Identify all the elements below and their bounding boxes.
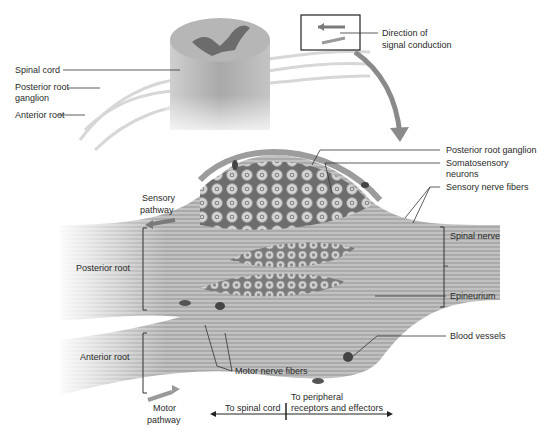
label-direction-2: signal conduction: [382, 40, 452, 51]
label-anterior-root-top: Anterior root: [15, 110, 65, 121]
label-posterior-root-ganglion: Posterior root ganglion: [446, 145, 537, 156]
label-motor-nerve-fibers: Motor nerve fibers: [235, 366, 308, 377]
label-motor-pathway: Motor: [153, 403, 176, 414]
label-epineurium: Epineurium: [450, 291, 496, 302]
label-to-peripheral-2: receptors and effectors: [291, 403, 383, 414]
label-anterior-root: Anterior root: [80, 352, 130, 363]
label-sensory-pathway: Sensory: [142, 193, 175, 204]
label-spinal-nerve: Spinal nerve: [450, 231, 500, 242]
label-posterior-root: Posterior root: [76, 263, 130, 274]
label-posterior-root-ganglion-top: Posterior root: [15, 82, 69, 93]
label-somatosensory-neurons: Somatosensory: [446, 158, 509, 169]
label-posterior-root-ganglion-top-2: ganglion: [15, 93, 49, 104]
label-direction: Direction of: [382, 28, 428, 39]
label-to-peripheral: To peripheral: [291, 392, 343, 403]
label-motor-pathway-2: pathway: [147, 415, 181, 426]
inset-box: [301, 15, 360, 50]
label-sensory-pathway-2: pathway: [140, 205, 174, 216]
label-to-spinal-cord: To spinal cord: [225, 403, 281, 414]
label-somatosensory-neurons-2: neurons: [446, 169, 479, 180]
label-blood-vessels: Blood vessels: [450, 331, 506, 342]
label-spinal-cord: Spinal cord: [15, 65, 60, 76]
label-sensory-nerve-fibers: Sensory nerve fibers: [446, 182, 529, 193]
spinal-cord-illustration: [165, 18, 275, 140]
